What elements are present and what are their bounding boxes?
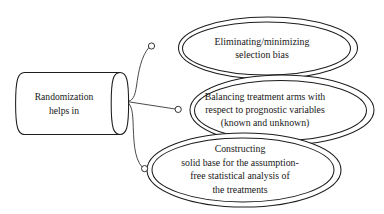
outcome-2-line-1: Balancing treatment arms with [205,91,326,102]
outcome-1-line-1: Eliminating/minimizing [215,36,310,47]
outcome-1-line-2: selection bias [235,49,289,60]
outcome-3-line-3: free statistical analysis of [190,170,290,181]
diagram-canvas: Randomization helps in Eliminating/minim… [0,0,384,214]
outcome-2-line-2: respect to prognostic variables [205,104,325,115]
connector-endpoint-circle-2 [175,106,181,112]
source-node-line-1: Randomization [35,91,94,102]
source-node-line-2: helps in [49,105,79,116]
outcome-3-line-1: Constructing [215,143,266,154]
outcome-3-line-2: solid base for the assumption- [181,157,299,168]
outcome-2-line-3: (known and unknown) [221,117,310,129]
outcome-3-line-4: the treatments [212,184,267,195]
diagram-svg: Randomization helps in Eliminating/minim… [0,0,384,214]
node-randomization-helps-in[interactable]: Randomization helps in [16,73,129,135]
node-eliminating-minimizing-selection-bias[interactable]: Eliminating/minimizing selection bias [179,17,358,79]
outcome-1-outer-ellipse [179,17,358,79]
node-constructing-solid-base[interactable]: Constructing solid base for the assumpti… [147,133,341,207]
connector-to-outcome-1 [127,47,150,102]
connector-endpoint-circle-3 [142,166,148,172]
connector-to-outcome-2 [127,102,176,110]
connector-endpoint-circle-1 [148,43,154,49]
